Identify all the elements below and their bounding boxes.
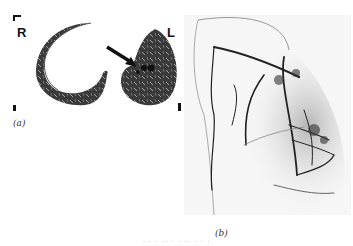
- panel-b-label: (b): [215, 228, 228, 238]
- panel-b-angiogram-image: [184, 15, 351, 215]
- lung-ct-illustration: [13, 15, 181, 111]
- panel-a-ct-image: R L: [13, 15, 181, 111]
- angiogram-illustration: [184, 15, 351, 215]
- figure-caption: · · · ·· · · ·· · · ·: [0, 238, 353, 246]
- panel-a-label: (a): [13, 118, 25, 128]
